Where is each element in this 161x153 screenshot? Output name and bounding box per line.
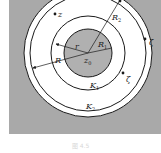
point-zeta-inner bbox=[122, 72, 125, 75]
label-z: z bbox=[57, 10, 63, 19]
point-z bbox=[54, 13, 57, 16]
label-zeta-outer: ζ bbox=[149, 38, 154, 47]
point-zeta-outer bbox=[144, 38, 147, 41]
annulus-diagram: z ζ ζ r R R1 R2 z0 K1 K2 bbox=[0, 0, 161, 153]
figure-caption: 图 4.5 bbox=[0, 141, 161, 150]
label-R: R bbox=[54, 56, 61, 65]
label-zeta-inner: ζ bbox=[126, 75, 131, 84]
